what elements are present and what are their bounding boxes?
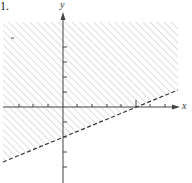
shaded-region <box>0 0 192 183</box>
inequality-graph: 1. y x <box>0 0 192 183</box>
graph-canvas <box>0 0 192 183</box>
y-axis-arrow-icon <box>61 12 66 20</box>
x-axis-arrow-icon <box>172 105 180 110</box>
